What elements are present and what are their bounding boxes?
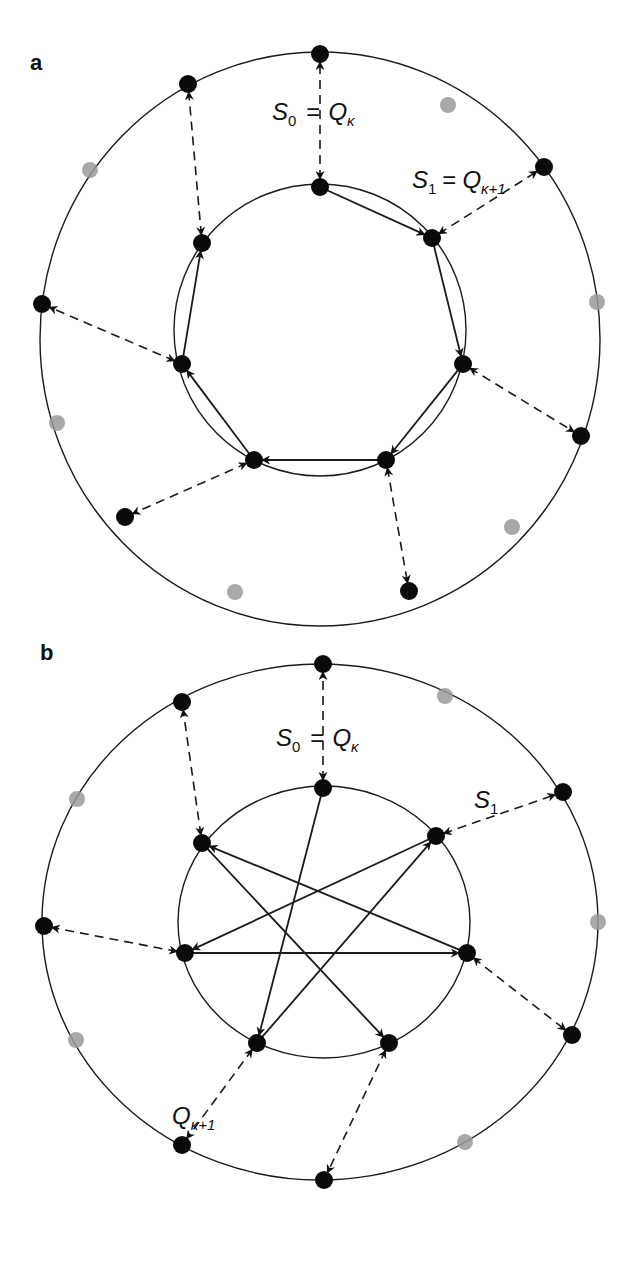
node-top [314,779,332,797]
node-upper-left [179,75,197,93]
inactive-node [68,1032,84,1048]
heptagram-edges-b [191,794,461,1039]
node-bottom-right [377,451,395,469]
ghost-nodes-a [49,97,605,600]
directed-edge [209,846,461,951]
outer-ring-a [40,52,600,626]
node-bottom-right [380,1034,398,1052]
label-s0-qk-a: S0=Qκ [272,98,356,129]
heptagon-edges-a [183,189,461,460]
coupling-arrow [473,958,565,1030]
directed-edge [391,369,459,454]
nodes-b [35,655,581,1189]
node-right [458,944,476,962]
panel-label-b: b [40,640,53,665]
inactive-node [49,415,65,431]
panel-b: b S0=Qκ S1 Qκ+1 [35,640,606,1189]
node-upper-right [427,827,445,845]
coupling-arrow [183,710,201,835]
node-upper-left [193,234,211,252]
coupling-arrows-a [49,62,574,583]
panel-label-a: a [30,50,43,75]
node-top [314,655,332,673]
directed-edge [187,370,251,455]
panel-a: a S0=Qκ S1=Qκ+1 [30,45,605,626]
label-s0-qk-b: S0=Qκ [276,724,360,755]
coupling-arrow [444,795,556,834]
directed-edge [325,189,424,234]
label-s1-b: S1 [474,786,498,817]
node-bottom-left [248,1034,266,1052]
node-lower-left [116,508,134,526]
directed-edge [433,244,461,356]
node-left [173,355,191,373]
inactive-node [227,584,243,600]
node-top [311,178,329,196]
directed-edge [206,847,383,1037]
inactive-node [69,791,85,807]
node-right [563,1026,581,1044]
inactive-node [437,688,453,704]
node-bottom-left [245,451,263,469]
directed-edge [183,251,201,358]
directed-edge [261,842,431,1038]
coupling-arrow [132,463,246,514]
node-upper-left [193,834,211,852]
node-right [572,427,590,445]
inactive-node [457,1134,473,1150]
node-top [311,45,329,63]
node-upper-left [173,693,191,711]
label-s1-qk1-a: S1=Qκ+1 [412,166,506,197]
coupling-arrow [49,307,174,361]
node-left [35,917,53,935]
directed-edge [192,839,430,950]
ghost-nodes-b [68,688,606,1150]
coupling-arrow [470,368,574,432]
label-qk1-b: Qκ+1 [172,1102,215,1133]
node-upper-right [423,229,441,247]
coupling-arrow [327,1050,385,1173]
inactive-node [589,294,605,310]
inactive-node [504,519,520,535]
coupling-arrow [189,92,202,235]
coupling-arrow [387,468,407,583]
inner-ring-a [174,184,466,476]
node-right [454,355,472,373]
node-left [176,944,194,962]
node-bottom [315,1171,333,1189]
node-lower-left [173,1136,191,1154]
coupled-ring-diagram: a S0=Qκ S1=Qκ+1 b S0=Qκ S1 Qκ+1 [0,0,638,1284]
inner-ring-b [178,786,470,1058]
node-upper-right [535,158,553,176]
node-upper-right [554,783,572,801]
node-bottom [400,582,418,600]
coupling-arrow [52,928,177,952]
node-left [33,295,51,313]
coupling-arrows-b [52,672,566,1173]
nodes-a [33,45,590,600]
inactive-node [440,97,456,113]
inactive-node [590,914,606,930]
inactive-node [82,162,98,178]
